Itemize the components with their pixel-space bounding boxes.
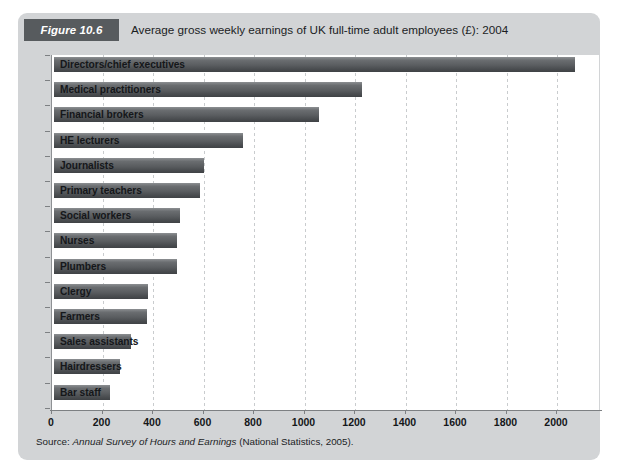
x-tick-label: 1200 xyxy=(331,416,377,428)
x-tick-label: 1800 xyxy=(483,416,529,428)
figure-header: Figure 10.6 Average gross weekly earning… xyxy=(18,13,600,46)
source-title: Annual Survey of Hours and Earnings xyxy=(73,436,237,447)
y-tick xyxy=(45,80,50,81)
bar-series: Directors/chief executivesMedical practi… xyxy=(52,55,599,410)
bar-category-label: Plumbers xyxy=(60,259,106,274)
x-tick xyxy=(51,410,52,414)
x-tick-label: 1400 xyxy=(382,416,428,428)
bar-category-label: Bar staff xyxy=(60,385,101,400)
x-tick-label: 2000 xyxy=(533,416,579,428)
x-tick xyxy=(405,410,406,414)
y-tick xyxy=(45,357,50,358)
source-publisher: (National Statistics, 2005). xyxy=(239,436,353,447)
x-tick-label: 200 xyxy=(79,416,125,428)
y-tick xyxy=(45,55,50,56)
source-note: Source: Annual Survey of Hours and Earni… xyxy=(36,436,354,447)
bar-category-label: Medical practitioners xyxy=(60,82,161,97)
x-tick xyxy=(203,410,204,414)
bar-category-label: HE lecturers xyxy=(60,133,119,148)
x-tick xyxy=(304,410,305,414)
figure-title: Average gross weekly earnings of UK full… xyxy=(131,19,508,41)
x-tick-label: 800 xyxy=(230,416,276,428)
bar-category-label: Sales assistants xyxy=(60,334,139,349)
x-tick-label: 600 xyxy=(180,416,226,428)
chart-plot-area: Directors/chief executivesMedical practi… xyxy=(51,55,599,410)
y-tick xyxy=(45,408,50,409)
y-tick xyxy=(45,105,50,106)
x-tick-label: 400 xyxy=(129,416,175,428)
y-tick xyxy=(45,332,50,333)
bar-category-label: Directors/chief executives xyxy=(60,57,185,72)
x-tick xyxy=(354,410,355,414)
y-tick xyxy=(45,131,50,132)
x-tick-label: 1600 xyxy=(432,416,478,428)
bar-category-label: Nurses xyxy=(60,233,94,248)
bar-category-label: Social workers xyxy=(60,208,131,223)
source-label: Source: xyxy=(36,436,70,447)
x-tick xyxy=(455,410,456,414)
x-tick xyxy=(102,410,103,414)
y-tick xyxy=(45,257,50,258)
x-tick xyxy=(253,410,254,414)
bar-category-label: Journalists xyxy=(60,158,114,173)
figure-container: Figure 10.6 Average gross weekly earning… xyxy=(18,13,600,460)
y-tick xyxy=(45,231,50,232)
x-tick-label: 0 xyxy=(28,416,74,428)
x-tick-label: 1000 xyxy=(281,416,327,428)
x-tick xyxy=(152,410,153,414)
y-tick xyxy=(45,181,50,182)
bar-category-label: Primary teachers xyxy=(60,183,142,198)
bar-category-label: Hairdressers xyxy=(60,359,122,374)
x-tick xyxy=(556,410,557,414)
bar-category-label: Farmers xyxy=(60,309,100,324)
y-tick xyxy=(45,383,50,384)
y-tick xyxy=(45,282,50,283)
y-tick xyxy=(45,307,50,308)
bar-category-label: Financial brokers xyxy=(60,107,144,122)
figure-number-badge: Figure 10.6 xyxy=(24,19,119,41)
x-axis-line xyxy=(50,410,602,411)
y-tick xyxy=(45,206,50,207)
x-tick xyxy=(506,410,507,414)
bar-category-label: Clergy xyxy=(60,284,91,299)
y-tick xyxy=(45,156,50,157)
